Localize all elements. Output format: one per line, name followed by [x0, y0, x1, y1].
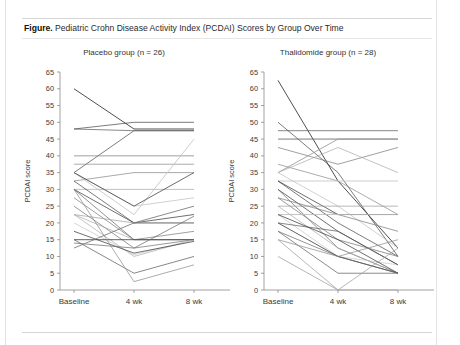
y-tick-label: 55 [46, 101, 54, 110]
x-tick-label: 4 wk [330, 297, 347, 306]
patient-line [278, 139, 398, 173]
y-tick-label: 20 [46, 219, 54, 228]
y-tick-label: 0 [254, 286, 258, 295]
patient-line [74, 122, 194, 129]
chart-thalidomide: Thalidomide group (n = 28) 0510152025303… [222, 46, 434, 332]
y-tick-label: 65 [46, 68, 54, 77]
y-tick-label: 40 [250, 151, 258, 160]
y-tick-label: 45 [250, 135, 258, 144]
y-tick-label: 10 [250, 252, 258, 261]
y-tick-label: 5 [254, 269, 258, 278]
chart-placebo: Placebo group (n = 26) 05101520253035404… [18, 46, 230, 332]
x-tick-label: Baseline [59, 297, 90, 306]
y-tick-label: 20 [250, 219, 258, 228]
panel-right-border [436, 0, 437, 345]
x-tick-label: 4 wk [126, 297, 143, 306]
x-tick-label: Baseline [263, 297, 294, 306]
caption-top-rule [22, 18, 432, 19]
patient-line [278, 147, 398, 164]
caption-bottom-rule [22, 38, 432, 39]
y-tick-label: 30 [46, 185, 54, 194]
y-tick-label: 65 [250, 68, 258, 77]
caption-label: Figure. [24, 23, 53, 33]
y-tick-label: 45 [46, 135, 54, 144]
y-axis-label: PCDAI score [23, 160, 32, 203]
y-tick-label: 15 [46, 235, 54, 244]
y-tick-label: 50 [250, 118, 258, 127]
patient-line [278, 122, 398, 256]
x-tick-label: 8 wk [186, 297, 203, 306]
patient-line [74, 139, 194, 214]
y-tick-label: 30 [250, 185, 258, 194]
y-tick-label: 60 [46, 84, 54, 93]
y-tick-label: 55 [250, 101, 258, 110]
y-tick-label: 5 [50, 269, 54, 278]
y-tick-label: 25 [46, 202, 54, 211]
y-tick-label: 35 [250, 168, 258, 177]
x-tick-label: 8 wk [390, 297, 407, 306]
patient-line [278, 147, 398, 172]
y-tick-label: 35 [46, 168, 54, 177]
y-tick-label: 25 [250, 202, 258, 211]
patient-line [278, 240, 398, 290]
y-tick-label: 50 [46, 118, 54, 127]
y-tick-label: 15 [250, 235, 258, 244]
caption-text: Pediatric Crohn Disease Activity Index (… [53, 23, 344, 33]
y-tick-label: 60 [250, 84, 258, 93]
patient-line [74, 173, 194, 181]
panel-left-border [5, 0, 6, 345]
patient-line [74, 189, 194, 281]
patient-line [74, 131, 194, 173]
patient-line [74, 89, 194, 129]
y-tick-label: 10 [46, 252, 54, 261]
y-axis-label: PCDAI score [227, 160, 236, 203]
y-tick-label: 0 [50, 286, 54, 295]
chart-placebo-plot: 05101520253035404550556065Baseline4 wk8 … [18, 46, 230, 332]
y-tick-label: 40 [46, 151, 54, 160]
patient-line [74, 215, 194, 257]
figure-caption: Figure. Pediatric Crohn Disease Activity… [24, 22, 430, 34]
chart-thalidomide-plot: 05101520253035404550556065Baseline4 wk8 … [222, 46, 434, 332]
patient-line [278, 181, 398, 215]
figure-bottom-rule [22, 332, 432, 333]
figure-panel: Figure. Pediatric Crohn Disease Activity… [0, 0, 460, 345]
